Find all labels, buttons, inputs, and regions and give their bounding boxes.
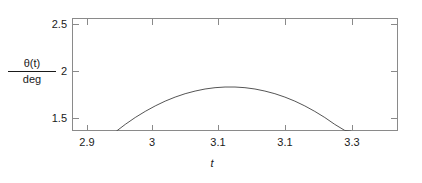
x-tick-mark-top <box>285 19 286 25</box>
x-axis-title: t <box>192 157 232 169</box>
x-tick-mark <box>218 125 219 131</box>
x-tick-mark-top <box>87 19 88 25</box>
y-axis-title-denominator: deg <box>8 72 56 86</box>
x-tick-label: 3.1 <box>265 136 305 148</box>
x-tick-label: 3.3 <box>332 136 372 148</box>
y-tick-mark-right <box>391 24 397 25</box>
x-tick-label: 3 <box>132 136 172 148</box>
y-tick-label: 2.5 <box>33 18 67 30</box>
x-tick-mark <box>352 125 353 131</box>
x-tick-mark <box>152 125 153 131</box>
y-tick-label: 1.5 <box>33 112 67 124</box>
y-tick-mark-right <box>391 118 397 119</box>
x-tick-mark <box>285 125 286 131</box>
x-tick-mark <box>87 125 88 131</box>
y-tick-mark <box>73 118 79 119</box>
y-axis-title: θ(t) deg <box>8 57 56 85</box>
x-tick-mark-top <box>218 19 219 25</box>
curve-layer <box>72 18 398 131</box>
y-tick-mark-right <box>391 71 397 72</box>
x-tick-mark-top <box>152 19 153 25</box>
x-tick-label: 2.9 <box>67 136 107 148</box>
x-tick-label: 3.1 <box>198 136 238 148</box>
chart-figure: 2.9 3 3.1 3.1 3.3 2.5 2 1.5 t θ(t) deg <box>0 0 422 183</box>
x-tick-mark-top <box>352 19 353 25</box>
y-tick-mark <box>73 71 79 72</box>
y-tick-mark <box>73 24 79 25</box>
y-axis-title-numerator: θ(t) <box>8 57 56 72</box>
